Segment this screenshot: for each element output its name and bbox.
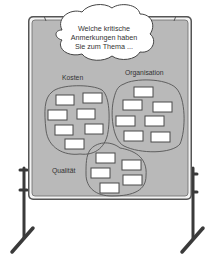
cluster-label-kosten: Kosten xyxy=(62,74,83,81)
card xyxy=(153,102,172,112)
card xyxy=(116,116,135,126)
question-line-3: Sie zum Thema ... xyxy=(75,42,133,51)
cluster-label-qualitaet: Qualität xyxy=(52,167,76,175)
question-cloud: Welche kritische Anmerkungen haben Sie z… xyxy=(56,5,154,61)
card xyxy=(56,95,74,105)
card xyxy=(100,183,119,193)
question-line-2: Anmerkungen haben xyxy=(71,33,138,42)
cluster-label-organisation: Organisation xyxy=(125,69,164,77)
card xyxy=(55,125,73,135)
card xyxy=(145,116,164,126)
card xyxy=(48,110,67,120)
card xyxy=(65,139,84,149)
card xyxy=(123,175,142,185)
card xyxy=(91,168,110,178)
card xyxy=(77,109,95,119)
question-line-1: Welche kritische xyxy=(78,24,130,33)
card xyxy=(122,160,141,170)
card xyxy=(124,131,143,141)
card xyxy=(96,153,115,163)
card xyxy=(123,100,142,110)
card xyxy=(83,93,102,103)
card xyxy=(151,132,170,142)
pinboard-illustration: Welche kritische Anmerkungen haben Sie z… xyxy=(0,0,216,268)
card xyxy=(134,87,153,97)
card xyxy=(85,124,103,134)
